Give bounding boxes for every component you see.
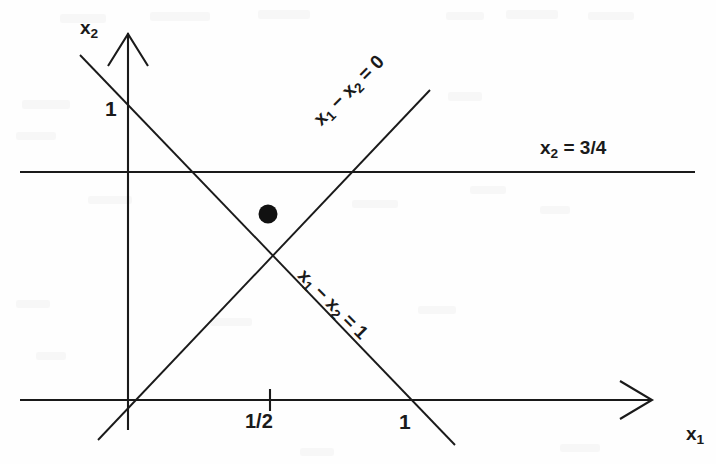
constraint-line-x1-minus-x2-eq-0	[98, 90, 430, 440]
constraint-label-x2-eq-3-4: x2 = 3/4	[540, 138, 606, 161]
x-tick-label-1: 1	[399, 411, 411, 432]
marked-point	[259, 205, 278, 224]
x-tick-label-half: 1/2	[245, 411, 273, 431]
constraint-line-x1-minus-x2-eq-1	[80, 55, 455, 445]
y-axis-label: x2	[80, 18, 98, 41]
constraint-diagram-figure: x2 x1 1 1/2 1 x2 = 3/4 x1 − x2 = 0 x1 − …	[0, 0, 716, 464]
x-axis-label: x1	[686, 424, 704, 447]
y-tick-label-1: 1	[105, 98, 117, 119]
